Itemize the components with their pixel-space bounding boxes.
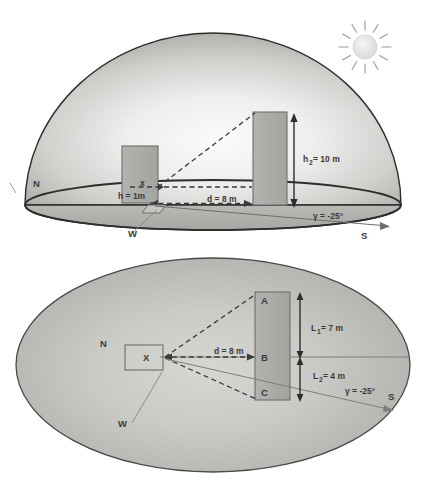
shading-diagram-svg: N W S x h = 1m d = 8 m h 2 = 10 m γ = -2…: [0, 0, 426, 498]
sun-icon: [339, 21, 391, 73]
point-label-a: A: [261, 295, 268, 306]
west-edge-tick: [10, 183, 16, 193]
plan-ground-ellipse: [16, 258, 410, 472]
compass-north-lower: N: [100, 338, 107, 349]
compass-west-upper: W: [128, 228, 137, 239]
distance-label-upper: d = 8 m: [207, 194, 237, 204]
length-2-symbol: L: [313, 371, 318, 381]
observer-point-label-lower: X: [143, 352, 150, 363]
length-1-value: = 7 m: [321, 323, 343, 333]
point-label-c: C: [261, 387, 268, 398]
compass-west-lower: W: [118, 418, 127, 429]
azimuth-label-lower: γ = -25°: [345, 386, 376, 396]
length-1-symbol: L: [311, 323, 316, 333]
upper-panel: N W S x h = 1m d = 8 m h 2 = 10 m γ = -2…: [10, 21, 401, 241]
azimuth-ray-arrow: [380, 222, 390, 230]
figure-root: N W S x h = 1m d = 8 m h 2 = 10 m γ = -2…: [0, 0, 426, 498]
obstruction-height-symbol: h: [303, 154, 308, 164]
compass-south-upper: S: [361, 230, 367, 241]
ground-plane-front: [25, 205, 401, 230]
lower-panel: N W S X d = 8 m A B C L 1 = 7 m L 2 = 4 …: [16, 258, 410, 472]
distance-label-lower: d = 8 m: [214, 346, 244, 356]
azimuth-label-upper: γ = -25°: [313, 211, 344, 221]
observer-height-label: h = 1m: [118, 191, 146, 201]
length-2-value: = 4 m: [323, 371, 345, 381]
obstruction-building-plan: [255, 292, 290, 400]
point-label-b: B: [261, 352, 268, 363]
sun-disc: [353, 35, 377, 59]
obstruction-height-value: = 10 m: [313, 154, 340, 164]
observer-point-label-upper: x: [140, 178, 145, 188]
compass-south-lower: S: [388, 391, 394, 402]
compass-north-upper: N: [33, 178, 40, 189]
obstruction-building-elevation: [253, 112, 287, 205]
